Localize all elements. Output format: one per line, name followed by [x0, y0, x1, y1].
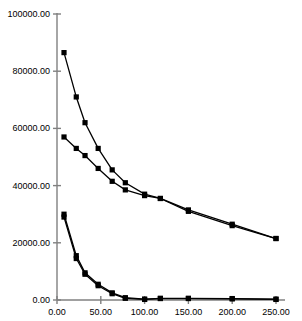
data-point-marker [110, 291, 115, 296]
data-point-marker [123, 180, 128, 185]
data-point-marker [74, 146, 79, 151]
data-point-marker [123, 296, 128, 301]
plot-area [0, 0, 302, 321]
data-point-marker [110, 179, 115, 184]
series-line [64, 53, 276, 239]
x-axis-tick-label: 250.00 [246, 307, 302, 317]
data-point-marker [142, 193, 147, 198]
y-axis-tick-label: 80000.00 [12, 66, 50, 76]
data-point-marker [96, 283, 101, 288]
series-series-4 [61, 214, 278, 302]
data-point-marker [230, 296, 235, 301]
data-point-marker [123, 187, 128, 192]
data-point-marker [158, 196, 163, 201]
data-point-marker [110, 167, 115, 172]
series-series-2 [61, 134, 278, 241]
series-series-3 [61, 212, 278, 302]
data-point-marker [186, 296, 191, 301]
data-point-marker [142, 297, 147, 302]
data-point-marker [61, 134, 66, 139]
data-point-marker [158, 296, 163, 301]
series-line [64, 137, 276, 239]
y-axis-tick-label: 100000.00 [7, 9, 50, 19]
data-point-marker [61, 214, 66, 219]
data-point-marker [74, 94, 79, 99]
data-point-marker [96, 166, 101, 171]
series-series-1 [61, 50, 278, 241]
data-point-marker [96, 146, 101, 151]
data-point-marker [82, 272, 87, 277]
y-axis-tick-label: 40000.00 [12, 181, 50, 191]
data-point-marker [273, 297, 278, 302]
data-point-marker [273, 236, 278, 241]
data-point-marker [61, 50, 66, 55]
data-point-marker [82, 120, 87, 125]
y-axis-tick-label: 0.00 [32, 295, 50, 305]
data-point-marker [74, 256, 79, 261]
y-axis-tick-label: 60000.00 [12, 123, 50, 133]
chart-container: 0.0020000.0040000.0060000.0080000.001000… [0, 0, 302, 321]
data-point-marker [82, 153, 87, 158]
y-axis-tick-label: 20000.00 [12, 238, 50, 248]
data-point-marker [186, 209, 191, 214]
data-point-marker [230, 223, 235, 228]
